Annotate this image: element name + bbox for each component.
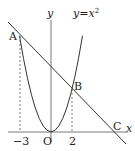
curve-label-eq: = — [79, 7, 88, 20]
tick-label-neg3: −3 — [13, 135, 29, 148]
point-c-label: C — [113, 120, 121, 133]
x-axis-label: x — [126, 122, 133, 135]
y-axis-label: y — [46, 7, 54, 20]
origin-label: O — [43, 135, 52, 148]
coordinate-diagram: y y=x2 A B C x −3 O 2 — [0, 0, 135, 151]
curve-label-exp: 2 — [95, 7, 99, 15]
point-b-label: B — [74, 80, 82, 93]
tick-label-2: 2 — [69, 135, 76, 148]
curve-label: y=x2 — [72, 7, 99, 20]
line-abc — [8, 22, 126, 144]
point-a-label: A — [8, 30, 18, 43]
